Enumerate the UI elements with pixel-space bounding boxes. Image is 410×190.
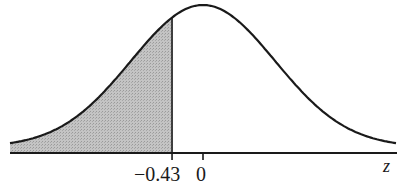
tick-label-zero: 0 <box>196 164 206 184</box>
normal-curve <box>10 5 396 143</box>
tick-label-neg: −0.43 <box>134 164 180 184</box>
shaded-left-tail <box>10 18 172 154</box>
normal-curve-chart <box>0 0 410 190</box>
axis-label-z: z <box>383 157 390 175</box>
